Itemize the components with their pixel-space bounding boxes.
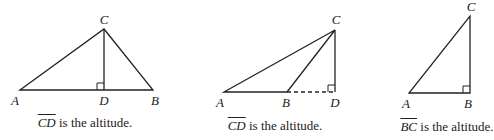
vertex-label-b: B xyxy=(282,96,290,109)
figure-right-triangle xyxy=(409,16,470,93)
right-angle-marker xyxy=(328,85,335,92)
vertex-label-c: C xyxy=(332,13,341,26)
segment-cd: CD xyxy=(38,115,56,130)
vertex-label-c: C xyxy=(467,0,476,13)
vertex-label-d: D xyxy=(99,94,108,107)
triangle-abc xyxy=(409,16,470,93)
right-angle-marker xyxy=(463,86,470,93)
caption-figure-2: CD is the altitude. xyxy=(228,119,323,132)
right-angle-marker xyxy=(97,83,104,90)
vertex-label-a: A xyxy=(402,97,410,110)
vertex-label-a: A xyxy=(216,96,224,109)
segment-bc: BC xyxy=(400,119,417,134)
vertex-label-c: C xyxy=(100,13,109,26)
vertex-label-b: B xyxy=(464,97,472,110)
vertex-label-b: B xyxy=(151,94,159,107)
segment-cd: CD xyxy=(228,118,246,133)
caption-figure-1: CD is the altitude. xyxy=(38,116,133,129)
caption-text: is the altitude. xyxy=(246,118,323,133)
triangle-abc xyxy=(224,30,335,92)
caption-text: is the altitude. xyxy=(417,119,494,134)
vertex-label-d: D xyxy=(330,96,339,109)
vertex-label-a: A xyxy=(11,94,19,107)
caption-figure-3: BC is the altitude. xyxy=(400,120,493,133)
triangle-abc xyxy=(20,29,153,90)
caption-text: is the altitude. xyxy=(56,115,133,130)
figure-obtuse-triangle xyxy=(224,30,335,92)
figure-acute-triangle xyxy=(20,29,153,90)
